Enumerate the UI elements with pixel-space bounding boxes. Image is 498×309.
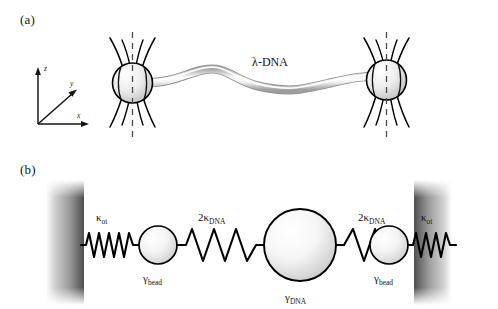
figure-root: (a) (b) <box>0 0 498 309</box>
dna-mass-label: γDNA <box>284 291 307 306</box>
svg-text:2κDNA: 2κDNA <box>358 211 386 226</box>
left-trap-spring-label: κot <box>96 211 108 226</box>
z-axis-label: z <box>43 64 47 73</box>
z-axis-arrowhead <box>35 67 41 75</box>
svg-text:γDNA: γDNA <box>284 291 307 306</box>
left-dna-spring <box>177 229 264 261</box>
svg-text:2κDNA: 2κDNA <box>198 211 226 226</box>
right-bead-mass-label: γbead <box>373 272 393 287</box>
panel-b-diagram: κot 2κDNA 2κDNA κot γbead γDNA <box>0 155 498 309</box>
left-bead-sub: bead <box>148 278 162 287</box>
left-optical-trap <box>110 32 155 137</box>
svg-text:γbead: γbead <box>373 272 393 287</box>
left-dna-spring-sub: DNA <box>209 217 226 226</box>
lambda-dna-label: λ-DNA <box>252 55 288 69</box>
right-bead-sub: bead <box>379 278 393 287</box>
left-bead-mass-label: γbead <box>142 272 162 287</box>
left-trap-spring-coils <box>81 233 139 257</box>
left-dna-spring-coils <box>177 229 264 261</box>
right-dna-spring-label: 2κDNA <box>358 211 386 226</box>
right-bead-mass <box>370 226 408 264</box>
dna-sub: DNA <box>290 297 307 306</box>
left-wall-fade <box>46 180 84 305</box>
x-axis-arrowhead <box>81 121 89 127</box>
right-optical-trap <box>364 32 409 137</box>
lambda-dna-strand <box>140 67 378 90</box>
right-dna-spring-sub: DNA <box>369 217 386 226</box>
left-wall <box>46 180 84 305</box>
svg-text:γbead: γbead <box>142 272 162 287</box>
panel-a-diagram: z x y λ-DNA <box>0 0 498 155</box>
svg-text:κot: κot <box>96 211 108 226</box>
dna-tube-shading <box>140 69 378 90</box>
left-bead-mass <box>139 226 177 264</box>
x-axis-label: x <box>76 111 81 120</box>
y-axis-label: y <box>69 79 74 88</box>
left-trap-spring-sub: ot <box>102 217 109 226</box>
dna-mass <box>264 209 336 281</box>
y-axis-line <box>38 94 72 124</box>
coordinate-axes: z x y <box>35 64 89 127</box>
right-trap-spring-sub: ot <box>427 217 434 226</box>
left-dna-spring-label: 2κDNA <box>198 211 226 226</box>
left-trap-spring <box>81 233 139 257</box>
